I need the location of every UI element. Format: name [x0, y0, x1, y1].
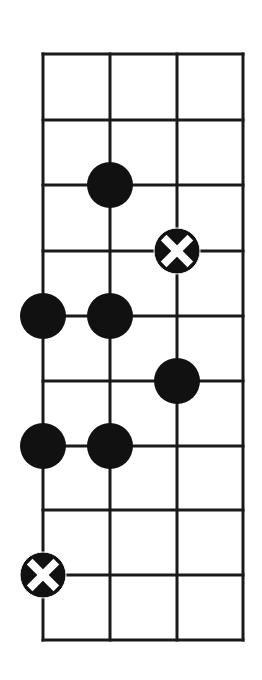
note-dot-icon	[87, 423, 133, 469]
fret-grid	[43, 54, 243, 640]
note-dot-icon	[87, 293, 133, 339]
root-note-x-icon	[20, 552, 66, 598]
fretboard-diagram	[0, 0, 262, 680]
note-dot-icon	[20, 293, 66, 339]
root-note-x-icon	[154, 228, 200, 274]
note-dot-icon	[20, 423, 66, 469]
note-dot-icon	[154, 358, 200, 404]
note-dot-icon	[87, 162, 133, 208]
